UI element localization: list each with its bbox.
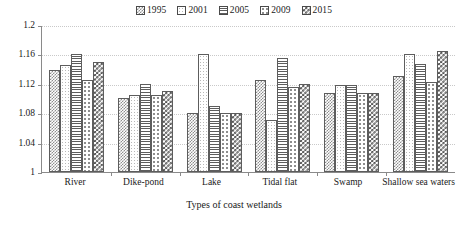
- bar-2001-tidal-flat[interactable]: [266, 120, 277, 172]
- legend-item-2015[interactable]: 2015: [302, 6, 332, 16]
- legend-label: 2005: [230, 6, 249, 16]
- x-axis-label-lake: Lake: [177, 177, 245, 187]
- bar-2009-shallow-sea-waters[interactable]: [426, 82, 437, 172]
- legend-item-2009[interactable]: 2009: [260, 6, 290, 16]
- bar-group-shallow-sea-waters: [386, 26, 455, 172]
- legend-swatch-2005-icon: [219, 6, 228, 15]
- bar-2015-shallow-sea-waters[interactable]: [437, 51, 448, 172]
- bar-2009-swamp[interactable]: [357, 93, 368, 172]
- bar-2005-lake[interactable]: [209, 106, 220, 172]
- x-axis-label-dike-pond: Dike-pond: [109, 177, 177, 187]
- y-axis-tick-label: 1.08: [1, 109, 35, 119]
- legend-item-1995[interactable]: 1995: [136, 6, 166, 16]
- bar-2009-river[interactable]: [82, 80, 93, 172]
- bar-group-dike-pond: [111, 26, 180, 172]
- bar-chart: 19952001200520092015 11.041.081.121.161.…: [0, 0, 468, 229]
- bar-1995-swamp[interactable]: [324, 93, 335, 172]
- bar-group-swamp: [317, 26, 386, 172]
- bar-2009-lake[interactable]: [220, 113, 231, 172]
- bar-2005-swamp[interactable]: [346, 85, 357, 172]
- legend-label: 2001: [188, 6, 207, 16]
- legend-swatch-1995-icon: [136, 6, 145, 15]
- bar-groups: [42, 26, 455, 172]
- bar-2015-swamp[interactable]: [368, 93, 379, 172]
- y-axis-tick-label: 1.16: [1, 50, 35, 60]
- bar-2009-dike-pond[interactable]: [151, 95, 162, 172]
- x-axis-title: Types of coast wetlands: [0, 199, 468, 210]
- bar-2001-dike-pond[interactable]: [129, 95, 140, 172]
- y-axis-tick-label: 1.12: [1, 80, 35, 90]
- bar-2001-shallow-sea-waters[interactable]: [404, 54, 415, 172]
- x-axis-label-river: River: [41, 177, 109, 187]
- x-axis-label-shallow-sea-waters: Shallow sea waters: [382, 177, 455, 187]
- legend-label: 1995: [147, 6, 166, 16]
- bar-1995-shallow-sea-waters[interactable]: [393, 76, 404, 172]
- bar-2015-tidal-flat[interactable]: [299, 84, 310, 172]
- bar-2015-dike-pond[interactable]: [162, 91, 173, 172]
- bar-2005-dike-pond[interactable]: [140, 84, 151, 172]
- bar-group-tidal-flat: [248, 26, 317, 172]
- y-axis-tick: [38, 173, 42, 174]
- bar-1995-dike-pond[interactable]: [118, 98, 129, 172]
- x-axis-label-tidal-flat: Tidal flat: [246, 177, 314, 187]
- bar-group-lake: [180, 26, 249, 172]
- bar-2015-river[interactable]: [93, 62, 104, 172]
- bar-2001-river[interactable]: [60, 65, 71, 172]
- legend-swatch-2015-icon: [302, 6, 311, 15]
- legend-swatch-2009-icon: [260, 6, 269, 15]
- legend-label: 2015: [313, 6, 332, 16]
- bar-1995-lake[interactable]: [187, 113, 198, 172]
- legend-swatch-2001-icon: [177, 6, 186, 15]
- bar-2005-river[interactable]: [71, 54, 82, 172]
- y-axis-tick-label: 1.04: [1, 139, 35, 149]
- legend-label: 2009: [271, 6, 290, 16]
- legend-item-2005[interactable]: 2005: [219, 6, 249, 16]
- bar-2009-tidal-flat[interactable]: [288, 87, 299, 172]
- bar-2001-lake[interactable]: [198, 54, 209, 172]
- bar-group-river: [42, 26, 111, 172]
- y-axis-tick-label: 1: [1, 168, 35, 178]
- x-axis-category-labels: RiverDike-pondLakeTidal flatSwampShallow…: [41, 177, 455, 187]
- bar-1995-tidal-flat[interactable]: [255, 80, 266, 172]
- bar-2005-shallow-sea-waters[interactable]: [415, 64, 426, 172]
- chart-legend: 19952001200520092015: [0, 6, 468, 16]
- x-axis-label-swamp: Swamp: [314, 177, 382, 187]
- plot-area: [41, 26, 455, 173]
- y-axis-tick-label: 1.2: [1, 21, 35, 31]
- bar-2005-tidal-flat[interactable]: [277, 58, 288, 172]
- bar-1995-river[interactable]: [49, 70, 60, 172]
- bar-2015-lake[interactable]: [231, 113, 242, 172]
- legend-item-2001[interactable]: 2001: [177, 6, 207, 16]
- bar-2001-swamp[interactable]: [335, 85, 346, 172]
